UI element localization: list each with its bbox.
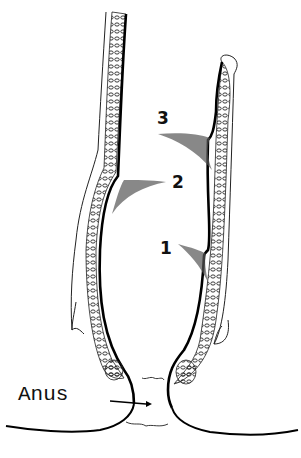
anus-pointer: [110, 401, 152, 407]
transverse-fold-2: [112, 180, 166, 214]
label-anus: Anus: [18, 384, 68, 405]
transverse-fold-3: [158, 133, 212, 170]
right-rectal-wall: [168, 55, 237, 408]
left-rectal-wall: [71, 12, 134, 404]
label-fold-1: 1: [160, 240, 172, 257]
label-fold-3: 3: [157, 110, 169, 127]
label-fold-2: 2: [172, 174, 184, 191]
